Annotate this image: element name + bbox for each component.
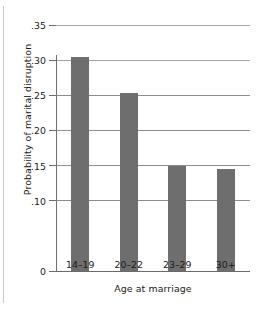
bar xyxy=(120,93,138,271)
bar xyxy=(168,166,186,271)
y-axis-tick xyxy=(49,60,56,61)
y-tick-label: 0 xyxy=(40,266,46,277)
y-axis-tick xyxy=(49,95,56,96)
bar xyxy=(217,169,235,271)
x-tick-label: 20–22 xyxy=(114,259,143,270)
y-tick-label: .20 xyxy=(31,125,46,136)
y-axis-tick xyxy=(49,200,56,201)
plot-area: 0.10.15.20.25.30.35 xyxy=(56,18,250,271)
chart-figure: Probability of marital disruption 0.10.1… xyxy=(0,0,268,309)
page-edge-rule xyxy=(3,6,4,303)
y-tick-label: .10 xyxy=(31,195,46,206)
y-axis-spine xyxy=(56,55,57,271)
y-axis-tick xyxy=(49,165,56,166)
y-tick-label: .30 xyxy=(31,55,46,66)
y-tick-label: .15 xyxy=(31,160,46,171)
x-axis-title: Age at marriage xyxy=(56,283,250,294)
y-axis-tick xyxy=(49,25,56,26)
y-axis-tick xyxy=(49,271,56,272)
gridline xyxy=(56,25,250,26)
x-tick-label: 30+ xyxy=(216,259,236,270)
bar xyxy=(71,57,89,271)
y-axis-title: Probability of marital disruption xyxy=(22,20,33,220)
y-tick-label: .25 xyxy=(31,90,46,101)
y-tick-label: .35 xyxy=(31,20,46,31)
x-tick-label: 23–29 xyxy=(163,259,192,270)
x-tick-label: 14–19 xyxy=(66,259,95,270)
y-axis-tick xyxy=(49,130,56,131)
